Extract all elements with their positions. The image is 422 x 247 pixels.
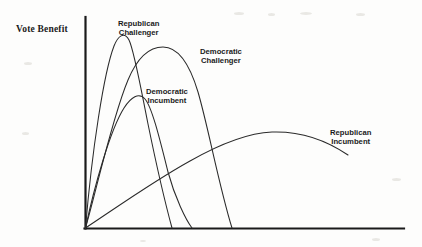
label-line-2: Challenger	[118, 28, 159, 37]
curve-label-republican-challenger: Republican Challenger	[118, 19, 159, 38]
label-line-1: Republican	[330, 128, 371, 137]
curve-label-republican-incumbent: Republican Incumbent	[330, 128, 371, 147]
label-line-2: Incumbent	[146, 96, 188, 105]
label-line-2: Incumbent	[330, 137, 371, 146]
label-line-2: Challenger	[200, 56, 242, 65]
plot-area	[0, 0, 422, 247]
label-line-1: Democratic	[200, 47, 242, 56]
curve-democratic-incumbent	[86, 96, 193, 228]
figure-canvas: Vote Benefit Republican Challenger Democ…	[0, 0, 422, 247]
label-line-1: Republican	[118, 19, 159, 28]
y-axis-title: Vote Benefit	[16, 24, 68, 34]
curve-label-democratic-incumbent: Democratic Incumbent	[146, 87, 188, 106]
curve-republican-incumbent	[86, 132, 349, 228]
label-line-1: Democratic	[146, 87, 188, 96]
curve-label-democratic-challenger: Democratic Challenger	[200, 47, 242, 66]
